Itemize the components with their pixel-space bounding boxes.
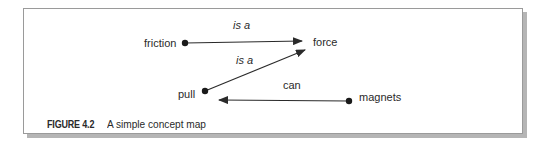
edge-label-pull-force: is a bbox=[236, 55, 253, 66]
node-label-pull: pull bbox=[178, 89, 195, 100]
node-label-magnets: magnets bbox=[359, 92, 401, 103]
node-dot-friction bbox=[182, 40, 188, 46]
figure-caption: FIGURE 4.2 A simple concept map bbox=[47, 119, 99, 130]
figure-number: FIGURE 4.2 bbox=[47, 120, 94, 130]
edge-magnets-can-pull bbox=[219, 100, 349, 101]
node-dot-magnets bbox=[346, 98, 352, 104]
node-dot-pull bbox=[202, 88, 208, 94]
node-label-friction: friction bbox=[144, 38, 176, 49]
edge-label-magnets-pull: can bbox=[283, 80, 301, 91]
edge-friction-is-a-force bbox=[185, 41, 302, 43]
arrow-line bbox=[185, 41, 302, 43]
edge-label-friction-force: is a bbox=[233, 20, 250, 31]
node-label-force: force bbox=[313, 37, 337, 48]
arrow-line bbox=[219, 100, 349, 101]
figure-caption-text: A simple concept map bbox=[107, 119, 206, 130]
